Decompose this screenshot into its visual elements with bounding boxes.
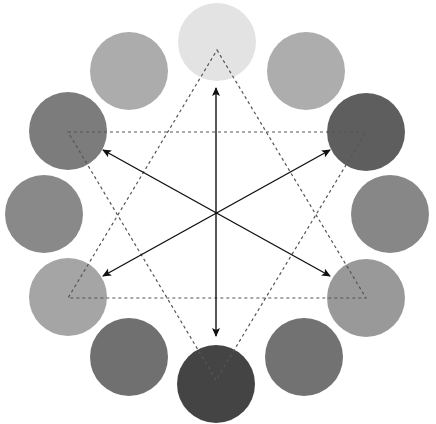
color-swatch-top-right — [267, 32, 345, 110]
color-swatch-bottom-left — [90, 318, 168, 396]
color-wheel-svg — [0, 0, 436, 424]
color-swatch-bottom-right — [265, 318, 343, 396]
color-swatch-left-middle — [5, 175, 83, 253]
complementary-arrows — [103, 88, 330, 336]
color-swatch-right-middle — [351, 175, 429, 253]
color-swatch-top — [178, 3, 256, 81]
color-swatch-left-upper — [29, 92, 107, 170]
color-wheel-diagram — [0, 0, 436, 424]
color-swatch-top-left — [90, 32, 168, 110]
color-swatch-bottom — [177, 345, 255, 423]
